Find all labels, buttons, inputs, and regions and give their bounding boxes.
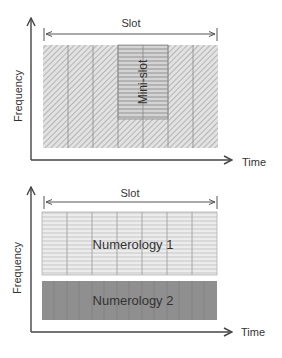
- frequency-axis-label: Frequency: [12, 70, 24, 122]
- diagram-canvas: Slot Mini-slot Time Frequency Numerology…: [0, 0, 282, 358]
- numerology-1-label: Numerology 1: [93, 237, 174, 252]
- time-axis-label-bottom: Time: [241, 326, 265, 338]
- numerology-2-label: Numerology 2: [93, 293, 174, 308]
- time-axis-label: Time: [242, 156, 266, 168]
- bottom-diagram: Numerology 1 Numerology 2 Slot: [11, 187, 265, 338]
- frequency-axis-label-bottom: Frequency: [11, 242, 23, 294]
- slot-label-bottom: Slot: [121, 187, 140, 199]
- slot-label: Slot: [122, 17, 141, 29]
- top-diagram: Slot Mini-slot Time Frequency: [12, 17, 266, 168]
- slot-span-indicator: [44, 28, 217, 41]
- mini-slot-label: Mini-slot: [136, 59, 150, 104]
